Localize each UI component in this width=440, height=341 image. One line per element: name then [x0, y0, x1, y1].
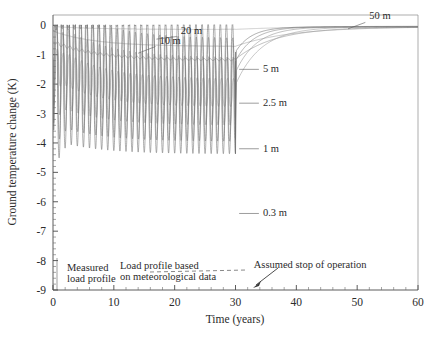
measured-load-profile-line2: load profile [67, 273, 116, 284]
y-tick-label-4: -4 [36, 137, 46, 149]
x-tick-label-6: 60 [412, 296, 424, 308]
y-tick-label-0: 0 [40, 19, 46, 31]
y-tick-label-6: -6 [36, 196, 46, 208]
x-tick-label-0: 0 [50, 296, 56, 308]
x-tick-label-3: 30 [230, 296, 242, 308]
y-tick-label-1: -1 [36, 49, 46, 61]
x-tick-label-5: 50 [351, 296, 363, 308]
x-tick-label-2: 20 [169, 296, 181, 308]
modeled-load-profile-line1: Load profile based [120, 260, 199, 271]
y-tick-label-3: -3 [36, 108, 46, 120]
x-tick-label-4: 40 [291, 296, 303, 308]
assumed-stop-of-operation-line1: Assumed stop of operation [254, 259, 368, 270]
ground-temperature-chart: 0-1-2-3-4-5-6-7-8-9 0102030405060 0.3 m1… [0, 0, 440, 341]
y-tick-label-8: -8 [36, 255, 46, 267]
y-tick-label-7: -7 [36, 225, 46, 237]
chart-page: 0-1-2-3-4-5-6-7-8-9 0102030405060 0.3 m1… [0, 0, 440, 341]
series-label-20-m: 20 m [181, 25, 202, 36]
x-tick-label-1: 10 [108, 296, 120, 308]
series-label-10-m: 10 m [159, 35, 180, 46]
x-axis-title: Time (years) [206, 313, 265, 326]
y-tick-label-9: -9 [36, 284, 46, 296]
y-tick-label-5: -5 [36, 166, 46, 178]
series-label-0-3-m: 0.3 m [263, 207, 287, 218]
series-label-1-m: 1 m [263, 143, 279, 154]
modeled-load-profile-line2: on meteorological data [120, 271, 217, 282]
y-axis-title: Ground temperature change (K) [6, 78, 19, 225]
y-tick-label-2: -2 [36, 78, 46, 90]
series-label-5-m: 5 m [263, 63, 279, 74]
series-label-50-m: 50 m [369, 10, 390, 21]
series-label-2-5-m: 2.5 m [263, 97, 287, 108]
measured-load-profile-line1: Measured [67, 262, 109, 273]
